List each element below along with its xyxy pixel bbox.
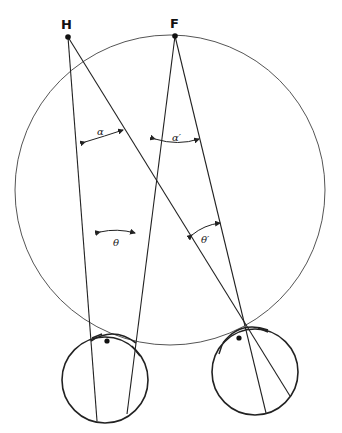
point-F bbox=[172, 33, 178, 39]
label-alpha-prime: α′ bbox=[172, 132, 182, 143]
label-F: F bbox=[170, 16, 179, 31]
right-eyeball bbox=[212, 329, 298, 415]
label-theta-prime: θ′ bbox=[201, 234, 210, 245]
line-F-left-eye bbox=[127, 36, 175, 414]
label-theta: θ bbox=[113, 237, 119, 248]
alpha-arc bbox=[85, 130, 123, 142]
line-F-right-eye bbox=[175, 36, 266, 413]
binocular-diagram: H F α α′ θ θ′ bbox=[0, 0, 342, 433]
vieth-muller-circle bbox=[15, 35, 325, 345]
line-H-right-eye bbox=[68, 37, 290, 396]
left-lid-mark-2 bbox=[132, 346, 140, 356]
left-pupil-dot bbox=[104, 338, 109, 343]
label-alpha: α bbox=[97, 126, 104, 137]
right-pupil-dot bbox=[236, 335, 241, 340]
label-H: H bbox=[61, 17, 72, 32]
point-H bbox=[65, 34, 71, 40]
theta-arc bbox=[100, 230, 135, 233]
line-H-left-eye bbox=[68, 37, 97, 421]
